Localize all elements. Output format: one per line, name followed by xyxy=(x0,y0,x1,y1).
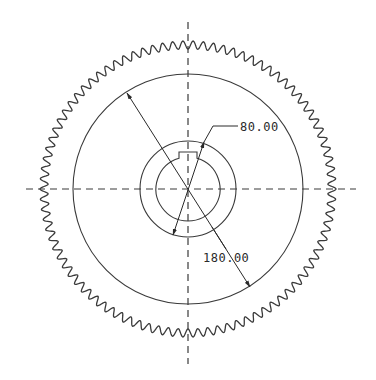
dimension-text-80: 80.00 xyxy=(240,120,279,134)
leader-line-80 xyxy=(204,126,238,142)
leader-line-180 xyxy=(212,227,226,249)
dimension-text-180: 180.00 xyxy=(203,251,249,265)
gear-drawing: 180.00 80.00 xyxy=(0,0,376,380)
bore-with-keyway xyxy=(156,152,220,221)
